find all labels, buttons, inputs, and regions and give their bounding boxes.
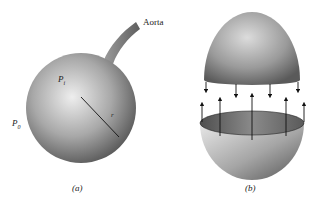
inner-pressure-label: Pi	[58, 74, 65, 86]
outer-pressure-label: P0	[12, 118, 21, 130]
panel-a-heart-sphere	[26, 22, 140, 163]
sphere	[26, 53, 136, 163]
figure-canvas	[0, 0, 321, 203]
aorta-label: Aorta	[143, 17, 164, 27]
caption-a: (a)	[72, 183, 83, 193]
top-hemisphere	[204, 12, 300, 85]
inner-pressure-subscript: i	[64, 80, 66, 86]
radius-label: r	[111, 111, 114, 119]
aorta-vessel	[103, 22, 140, 64]
panel-b-split-sphere	[200, 12, 304, 180]
caption-b: (b)	[245, 183, 256, 193]
outer-pressure-subscript: 0	[18, 124, 21, 130]
